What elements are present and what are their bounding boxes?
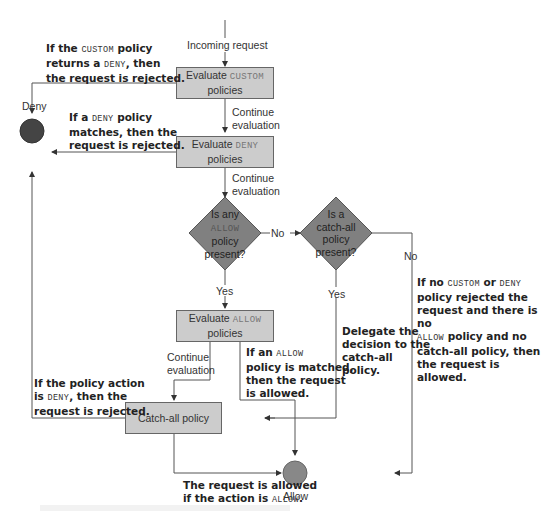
note-text: or [480, 276, 500, 288]
note-text: The request is allowed [183, 479, 317, 491]
note-text: is allowed. [246, 387, 309, 399]
note-text: policy. [342, 364, 380, 376]
note-text: Delegate the [342, 325, 419, 337]
edge-label-line: Continue [167, 351, 209, 363]
note-text: is [34, 390, 48, 402]
deny-keyword: DENY [500, 279, 522, 289]
deny-keyword: DENY [104, 60, 126, 70]
edge-label-line: Continue [232, 106, 274, 118]
note-custom-deny: If the CUSTOM policy returns a DENY, the… [46, 42, 185, 85]
diamond-line: catch-all [316, 221, 355, 233]
note-text: the request is rejected. [46, 72, 185, 84]
custom-keyword: CUSTOM [81, 45, 113, 55]
continue-evaluation-label-2: Continue evaluation [232, 172, 280, 197]
continue-evaluation-label-1: Continue evaluation [232, 106, 280, 131]
deny-terminal-label: Deny [22, 100, 47, 113]
note-text: If no [417, 276, 447, 288]
note-text: the request is allowed. [417, 358, 499, 383]
note-text: catch-all [342, 351, 393, 363]
diamond-line: Is any [211, 208, 239, 220]
note-text: if the action is [183, 492, 272, 504]
incoming-request-label: Incoming request [187, 39, 268, 52]
catchall-diamond-text: Is a catch-all policy present? [306, 208, 366, 258]
note-text: policy [114, 42, 153, 54]
note-text: , then the [69, 390, 127, 402]
note-text: , then [126, 57, 161, 69]
note-text: If an [246, 346, 276, 358]
allow-diamond-text: Is any ALLOW policy present? [195, 208, 255, 260]
note-text: If a [69, 111, 92, 123]
note-text: returns a [46, 57, 104, 69]
diamond-line: Is a [328, 208, 345, 220]
box-prefix: Evaluate [189, 312, 233, 324]
diamond-line: present? [205, 248, 246, 260]
custom-keyword: CUSTOM [230, 72, 264, 82]
continue-evaluation-label-3: Continue evaluation [167, 351, 215, 376]
faded-caption [40, 505, 290, 511]
edge-label-line: Continue [232, 172, 274, 184]
edge-label-line: evaluation [232, 185, 280, 197]
note-text: request is rejected. [34, 405, 150, 417]
box-suffix: policies [207, 327, 242, 339]
no-label-1: No [271, 227, 284, 240]
diamond-line: policy [212, 235, 239, 247]
diamond-line: present? [316, 246, 357, 258]
deny-keyword: DENY [48, 393, 70, 403]
deny-keyword: DENY [92, 114, 114, 124]
note-text: policy rejected the [417, 291, 528, 303]
diamond-line: policy [323, 233, 350, 245]
evaluate-deny-box: Evaluate DENY policies [176, 136, 274, 168]
note-allow-match: If an ALLOW policy is matched, then the … [246, 346, 354, 400]
allow-keyword: ALLOW [276, 349, 303, 359]
note-deny-match: If a DENY policy matches, then the reque… [69, 111, 185, 152]
note-text: If the policy action [34, 377, 145, 389]
box-prefix: Evaluate [186, 69, 230, 81]
note-text: then the request [246, 374, 346, 386]
deny-terminal [20, 119, 44, 143]
note-text: request is rejected. [69, 139, 185, 151]
note-text: If the [46, 42, 81, 54]
note-text: . [299, 492, 303, 504]
box-suffix: policies [207, 84, 242, 96]
allow-keyword: ALLOW [233, 315, 262, 325]
edge-label-line: evaluation [232, 119, 280, 131]
allow-keyword: ALLOW [211, 224, 240, 234]
box-suffix: policies [207, 153, 242, 165]
note-no-policy: If no CUSTOM or DENY policy rejected the… [417, 276, 544, 384]
note-text: matches, then the [69, 126, 177, 138]
evaluate-allow-box: Evaluate ALLOW policies [176, 310, 274, 342]
yes-label-1: Yes [216, 285, 233, 298]
allow-keyword: ALLOW [272, 495, 299, 505]
note-text: request and there is no [417, 304, 538, 329]
note-catchall-deny: If the policy action is DENY, then the r… [34, 377, 150, 418]
yes-label-2: Yes [328, 288, 345, 301]
no-label-2: No [404, 250, 417, 263]
note-text: policy [113, 111, 152, 123]
allow-keyword: ALLOW [417, 333, 444, 343]
box-prefix: Evaluate [192, 138, 236, 150]
evaluate-custom-box: Evaluate CUSTOM policies [176, 67, 274, 99]
edge-label-line: evaluation [167, 364, 215, 376]
custom-keyword: CUSTOM [447, 279, 479, 289]
note-text: policy is matched, [246, 361, 354, 373]
note-catchall-allow: The request is allowed if the action is … [183, 479, 317, 507]
deny-keyword: DENY [235, 141, 258, 151]
note-text: policy and no [444, 330, 527, 342]
note-text: catch-all policy, then [417, 345, 540, 357]
